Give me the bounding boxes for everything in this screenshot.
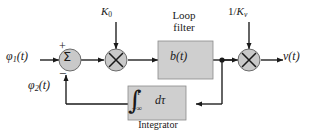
integrator-caption: Integrator [119,120,197,131]
loop-filter-caption: Loopfilter [155,10,213,33]
feedback-tap-node [219,57,224,62]
output-arg: (t) [288,49,299,63]
loop-filter-caption-line2: filter [173,21,194,33]
input-signal-label: φ1(t) [6,50,28,65]
feedback-symbol: φ [28,78,35,92]
input-symbol: φ [6,49,13,63]
kv-numerator: 1/ [228,5,237,17]
integral-differential: dτ [155,93,165,107]
pll-block-diagram: φ1(t) φ2(t) + − Σ K0 Loopfilter b(t) 1/K… [0,0,311,140]
input-arg: (t) [17,49,28,63]
kv-symbol: K [237,5,244,17]
loop-filter-block-label: b(t) [170,50,187,63]
integral-lower-limit: −∞ [132,104,142,113]
loop-filter-caption-line1: Loop [172,9,195,21]
summer-minus-sign: − [59,67,66,81]
feedback-signal-label: φ2(t) [28,79,50,94]
multiplier-kv [238,49,260,71]
multiplier-k0 [105,49,127,71]
output-signal-label: v(t) [283,50,300,63]
k0-subscript: 0 [108,10,112,19]
gain-kv-label: 1/Kv [228,6,247,19]
gain-k0-label: K0 [101,6,112,19]
bt-arg: (t) [176,49,187,63]
sigma-icon: Σ [63,50,71,64]
feedback-arg: (t) [39,78,50,92]
kv-subscript: v [244,10,247,19]
integrator-expression: ∫t−∞dτ [128,90,165,111]
integral-upper-limit: t [138,88,140,97]
